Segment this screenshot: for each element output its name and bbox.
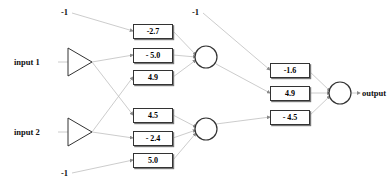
- weight-box-bias2-hidden2: 5.0: [133, 153, 173, 168]
- triangle-buffer-icon-input1: [68, 48, 92, 76]
- weight-box-input1-hidden2: 4.5: [133, 108, 173, 123]
- output-label: output: [362, 89, 386, 98]
- weight-box-hidden2-output: - 4.5: [270, 110, 310, 125]
- bias-label-hidden-1: -1: [61, 8, 68, 17]
- weight-box-bias3-output: -1.6: [270, 63, 310, 78]
- wire-bias2-to-w6: [72, 160, 133, 173]
- input-label-1: input 1: [14, 58, 40, 67]
- wire-w4-to-hidden2: [173, 115, 196, 127]
- hidden-neuron-1: [195, 46, 217, 68]
- weight-box-input2-hidden1: 4.9: [133, 70, 173, 85]
- wire-bias1-to-w1: [72, 13, 133, 31]
- wire-in1-to-w2: [92, 55, 133, 62]
- wire-w3-to-hidden1: [173, 60, 196, 77]
- output-neuron: [329, 82, 351, 104]
- wire-in2-to-w5: [92, 132, 133, 138]
- neural-network-diagram: -1 -1 -1 input 1 input 2 output -2.7 - 5…: [0, 0, 392, 190]
- input-label-2: input 2: [14, 128, 40, 137]
- wire-w2-to-hidden1: [173, 55, 196, 57]
- wire-w7-to-output: [308, 70, 330, 91]
- wire-hidden2-to-w9: [216, 117, 270, 124]
- weight-box-input1-hidden1: - 5.0: [133, 48, 173, 63]
- wire-w1-to-hidden1: [173, 31, 196, 55]
- hidden-neuron-2: [195, 118, 217, 140]
- triangle-buffer-icon-input2: [68, 118, 92, 146]
- connection-wires: [0, 0, 392, 190]
- weight-box-hidden1-output: 4.9: [270, 86, 310, 101]
- bias-label-hidden-2: -1: [61, 169, 68, 178]
- wire-hidden1-to-w8: [216, 64, 270, 93]
- wire-w9-to-output: [308, 96, 330, 117]
- weight-box-bias1-hidden1: -2.7: [133, 24, 173, 39]
- bias-label-output: -1: [192, 8, 199, 17]
- wire-in2-to-w3: [92, 77, 133, 132]
- weight-box-input2-hidden2: - 2.4: [133, 131, 173, 146]
- wire-in1-to-w4: [92, 62, 133, 115]
